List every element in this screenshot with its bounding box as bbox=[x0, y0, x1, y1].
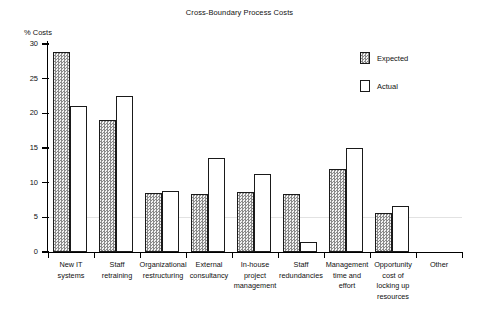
x-tick-7 bbox=[370, 252, 371, 258]
chart-legend: ExpectedActual bbox=[360, 52, 408, 108]
x-tick-8 bbox=[416, 252, 417, 258]
bar-expected-0 bbox=[53, 52, 70, 252]
x-tick-6 bbox=[324, 252, 325, 258]
legend-swatch-expected bbox=[360, 52, 370, 64]
category-label-8: Other bbox=[411, 260, 467, 271]
category-label-line: cost of bbox=[365, 271, 421, 282]
x-tick-5 bbox=[278, 252, 279, 258]
x-tick-3 bbox=[186, 252, 187, 258]
x-tick-end bbox=[462, 252, 463, 258]
category-label-line: management bbox=[227, 281, 283, 292]
legend-label-expected: Expected bbox=[377, 54, 408, 63]
category-label-line: Other bbox=[411, 260, 467, 271]
bar-expected-4 bbox=[237, 192, 254, 252]
category-label-line: resources bbox=[365, 292, 421, 303]
chart-container: Cross-Boundary Process Costs % Costs 051… bbox=[0, 0, 479, 315]
legend-label-actual: Actual bbox=[377, 82, 398, 91]
bar-actual-2 bbox=[162, 191, 179, 252]
x-tick-0 bbox=[48, 252, 49, 258]
bar-actual-5 bbox=[300, 242, 317, 252]
category-label-line: locking up bbox=[365, 281, 421, 292]
legend-item-actual[interactable]: Actual bbox=[360, 80, 408, 92]
bar-actual-7 bbox=[392, 206, 409, 252]
legend-item-expected[interactable]: Expected bbox=[360, 52, 408, 64]
bar-expected-7 bbox=[375, 213, 392, 252]
bar-actual-1 bbox=[116, 96, 133, 252]
x-tick-2 bbox=[140, 252, 141, 258]
bar-actual-6 bbox=[346, 148, 363, 252]
bar-expected-6 bbox=[329, 169, 346, 252]
bar-actual-0 bbox=[70, 106, 87, 252]
x-tick-4 bbox=[232, 252, 233, 258]
legend-swatch-actual bbox=[360, 80, 370, 92]
x-tick-1 bbox=[94, 252, 95, 258]
bar-expected-2 bbox=[145, 193, 162, 252]
bar-actual-4 bbox=[254, 174, 271, 252]
bar-actual-3 bbox=[208, 158, 225, 252]
bar-expected-5 bbox=[283, 194, 300, 252]
bars-layer bbox=[0, 0, 479, 252]
bar-expected-1 bbox=[99, 120, 116, 252]
bar-expected-3 bbox=[191, 194, 208, 252]
